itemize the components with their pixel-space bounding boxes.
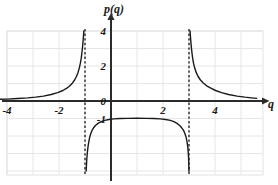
chart-figure: -4-224 420-1 p(q) q <box>0 0 278 185</box>
y-tick-label: 0 <box>101 95 107 107</box>
x-tick-label: 4 <box>211 104 218 116</box>
x-axis-title: q <box>268 97 274 111</box>
y-tick-label: 4 <box>100 25 107 37</box>
chart-background <box>0 0 278 185</box>
x-tick-label: 2 <box>159 104 166 116</box>
y-axis-title: p(q) <box>103 2 124 16</box>
function-graph: -4-224 420-1 p(q) q <box>0 0 278 185</box>
x-tick-label: -4 <box>2 104 12 116</box>
y-tick-label: -1 <box>97 113 106 125</box>
y-tick-label: 2 <box>100 60 107 72</box>
x-tick-label: -2 <box>54 104 64 116</box>
